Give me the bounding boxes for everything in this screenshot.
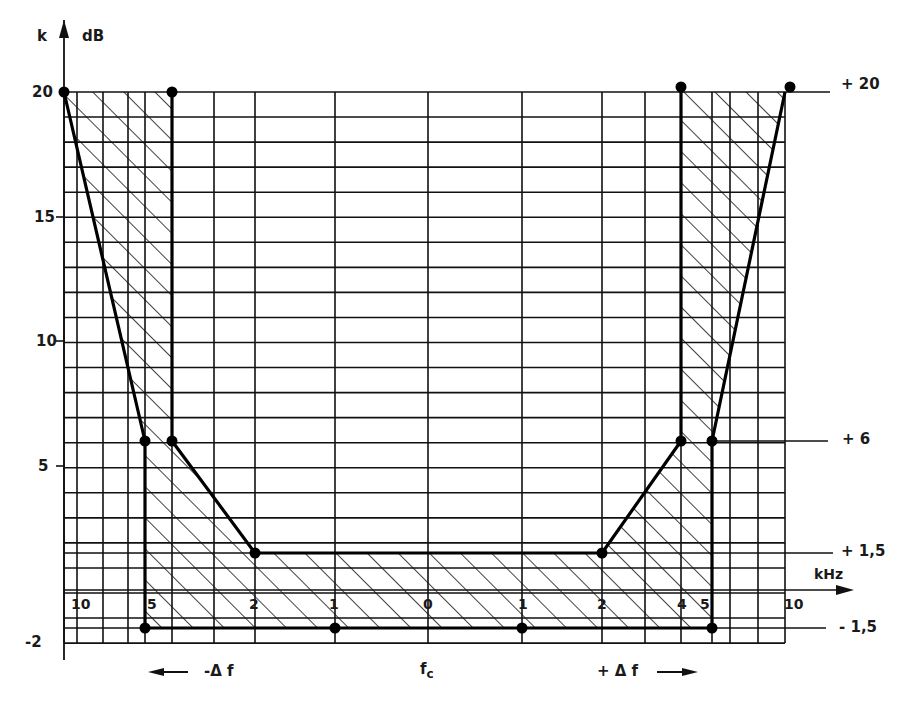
- fc-subscript: c: [427, 667, 434, 681]
- fc-label: fc: [420, 662, 434, 677]
- right-marker-minus1-5: - 1,5: [839, 620, 877, 635]
- right-marker-plus20: + 20: [841, 77, 880, 92]
- left-arrow-icon: [148, 668, 164, 676]
- x-tick-5-left: 5: [147, 597, 157, 611]
- x-tick-10-right: 10: [784, 597, 803, 611]
- inner-limit: [172, 92, 681, 553]
- y-tick-10: 10: [36, 334, 57, 349]
- x-tick-2-right: 2: [597, 597, 607, 611]
- x-axis-arrow-icon: [836, 585, 854, 595]
- right-arrow-icon: [682, 668, 698, 676]
- minus-delta-f-label: -Δ f: [204, 664, 234, 679]
- y-ticks: [56, 217, 64, 466]
- right-marker-plus1-5: + 1,5: [841, 544, 885, 559]
- y-axis: [59, 20, 69, 660]
- fc-main: f: [420, 660, 427, 678]
- plus-delta-f-label: + Δ f: [597, 664, 638, 679]
- right-marker-plus6: + 6: [842, 432, 870, 447]
- x-tick-5-right: 5: [700, 597, 710, 611]
- y-axis-symbol-k: k: [37, 29, 47, 44]
- x-tick-0: 0: [423, 597, 433, 611]
- tolerance-chart: [0, 0, 903, 710]
- y-axis-arrow-icon: [59, 20, 69, 38]
- x-tick-10-left: 10: [71, 597, 90, 611]
- x-tick-1-left: 1: [329, 597, 339, 611]
- x-tick-2-left: 2: [249, 597, 259, 611]
- y-tick-5: 5: [38, 459, 48, 474]
- x-tick-1-right: 1: [518, 597, 528, 611]
- y-tick-20: 20: [32, 85, 53, 100]
- y-axis-unit-db: dB: [82, 29, 104, 44]
- y-tick-15: 15: [34, 210, 55, 225]
- y-tick-minus2: -2: [25, 635, 42, 650]
- x-axis-unit-khz: kHz: [814, 567, 843, 581]
- khz-axis-arrow: [785, 585, 854, 595]
- x-tick-4-right: 4: [677, 597, 687, 611]
